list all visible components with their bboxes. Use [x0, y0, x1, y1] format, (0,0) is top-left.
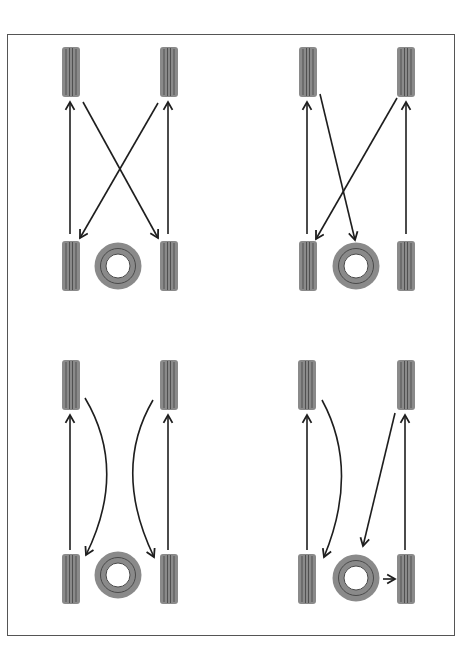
spare-tire-icon	[95, 552, 142, 599]
rotation-arrows	[307, 94, 406, 240]
rotation-arrows	[307, 400, 405, 579]
pattern-3	[62, 360, 178, 604]
tire-rotation-diagram	[0, 0, 464, 652]
spare-tire-icon	[95, 243, 142, 290]
pattern-4	[298, 360, 415, 604]
rear-right-tire-icon	[397, 241, 415, 291]
spare-tire-icon	[333, 243, 380, 290]
rear-right-tire-icon	[160, 554, 178, 604]
front-left-tire-icon	[62, 47, 80, 97]
pattern-1	[62, 47, 178, 291]
rotation-arrows	[70, 398, 168, 557]
rear-left-tire-icon	[298, 554, 316, 604]
front-right-tire-icon	[397, 360, 415, 410]
front-left-tire-icon	[298, 360, 316, 410]
front-right-tire-icon	[397, 47, 415, 97]
front-left-tire-icon	[299, 47, 317, 97]
rear-left-tire-icon	[299, 241, 317, 291]
rear-right-tire-icon	[397, 554, 415, 604]
spare-tire-icon	[333, 555, 380, 602]
front-right-tire-icon	[160, 47, 178, 97]
rear-left-tire-icon	[62, 241, 80, 291]
rear-left-tire-icon	[62, 554, 80, 604]
front-left-tire-icon	[62, 360, 80, 410]
rotation-arrows	[70, 102, 168, 238]
pattern-2	[299, 47, 415, 291]
rear-right-tire-icon	[160, 241, 178, 291]
front-right-tire-icon	[160, 360, 178, 410]
